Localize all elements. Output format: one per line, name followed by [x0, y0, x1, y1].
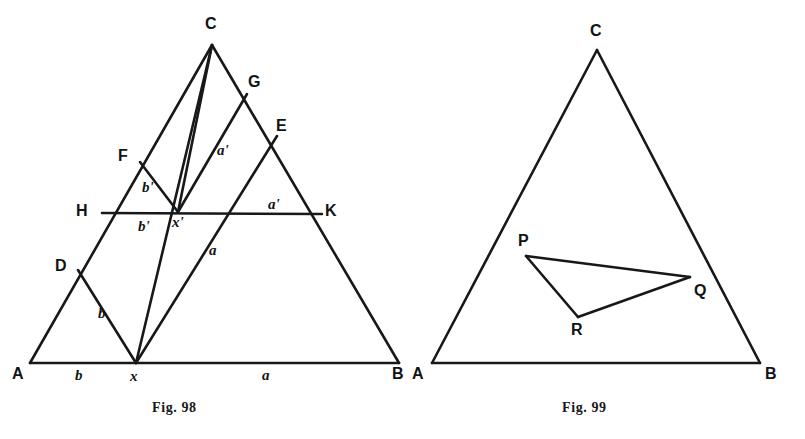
figure-98-caption: Fig. 98 — [152, 400, 197, 416]
side-CB — [597, 50, 760, 363]
line-Cx — [136, 45, 212, 363]
seg-bprime-up: b' — [142, 180, 154, 195]
point-label-F: F — [118, 148, 128, 164]
side-QR — [578, 277, 690, 317]
point-label-A: A — [12, 366, 24, 382]
line-Dx — [78, 270, 136, 363]
figure-99-caption: Fig. 99 — [562, 400, 607, 416]
seg-a-base: a — [262, 368, 270, 383]
point-label-E: E — [276, 118, 287, 134]
point-label-D: D — [55, 258, 67, 274]
seg-bprime-lo: b' — [138, 219, 150, 234]
figure-98: ABCDFHGEKxx'babb'b'aa'a' Fig. 98 — [0, 0, 420, 439]
seg-b-base: b — [75, 368, 83, 383]
seg-a-xE: a — [209, 243, 217, 258]
seg-b-Dx: b — [98, 306, 106, 321]
figure-99-drawing — [400, 0, 805, 439]
point-label-B: B — [765, 366, 777, 382]
line-xpG — [178, 94, 247, 212]
seg-aprime-up: a' — [217, 143, 229, 158]
figure-99: ABCPQR Fig. 99 — [400, 0, 805, 439]
point-label-C: C — [205, 16, 217, 32]
point-label-C: C — [590, 23, 602, 39]
line-Cxp — [178, 45, 212, 212]
point-label-x: x — [130, 369, 138, 384]
line-xE — [136, 136, 277, 363]
point-label-P: P — [518, 233, 529, 249]
side-RP — [526, 256, 578, 317]
point-label-K: K — [325, 203, 337, 219]
side-AC — [432, 50, 597, 363]
seg-aprime-HK: a' — [268, 197, 280, 212]
point-label-H: H — [76, 203, 88, 219]
side-AC — [30, 45, 212, 363]
figure-plate: ABCDFHGEKxx'babb'b'aa'a' Fig. 98 ABCPQR … — [0, 0, 805, 439]
point-label-A: A — [412, 366, 424, 382]
point-label-Q: Q — [694, 283, 706, 299]
point-label-R: R — [571, 322, 583, 338]
side-CB — [212, 45, 399, 363]
side-PQ — [526, 256, 690, 277]
figure-98-drawing — [0, 0, 420, 439]
point-label-xp: x' — [172, 215, 184, 230]
point-label-G: G — [248, 74, 260, 90]
line-HK — [102, 213, 322, 214]
